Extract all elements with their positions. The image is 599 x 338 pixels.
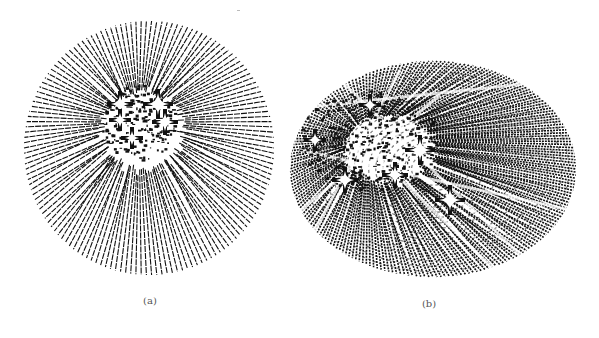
caption-b: (b) [409, 298, 449, 309]
panel-a-pattern [24, 21, 274, 275]
panel-b-pattern [290, 61, 576, 277]
caption-a: (a) [130, 295, 170, 306]
scan-speck [237, 10, 240, 11]
figure: (a) (b) [0, 0, 599, 338]
figure-graphics [0, 0, 599, 338]
